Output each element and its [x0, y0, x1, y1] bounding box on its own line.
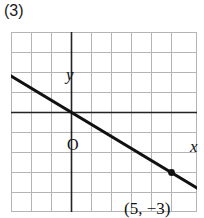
- problem-number-label: (3): [4, 1, 24, 21]
- coordinate-graph: y x O (5, −3): [11, 32, 197, 212]
- graph-background: [11, 32, 197, 212]
- plotted-point-marker: [168, 169, 175, 176]
- worksheet-figure: (3): [0, 0, 204, 218]
- x-axis-label: x: [190, 138, 198, 155]
- origin-label: O: [67, 137, 79, 153]
- graph-canvas: [11, 32, 197, 212]
- point-coordinate-label: (5, −3): [124, 200, 170, 217]
- y-axis-label: y: [66, 66, 74, 83]
